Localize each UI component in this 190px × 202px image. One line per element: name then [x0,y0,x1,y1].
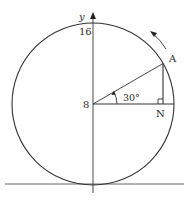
rotation-arrow [153,34,166,49]
right-angle-marker [158,99,163,104]
angle-label: 30° [123,92,140,103]
diagram-canvas: y 16 8 A N 30° [0,0,190,202]
point-n-label: N [156,108,165,119]
y-axis-arrow-icon [90,12,96,19]
point-a-label: A [168,53,177,64]
top-value-label: 16 [79,26,92,37]
center-value-label: 8 [83,99,89,110]
y-axis-label: y [78,11,85,22]
